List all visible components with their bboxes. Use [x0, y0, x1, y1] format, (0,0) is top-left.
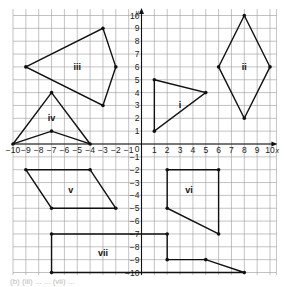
vertex-point: [114, 206, 118, 210]
vertex-point: [24, 168, 28, 172]
vertex-point: [243, 14, 247, 18]
y-tick-label: −3: [130, 178, 140, 188]
shape-label: ii: [242, 62, 247, 72]
shape-label: iv: [48, 113, 56, 123]
x-tick-label: −4: [85, 145, 95, 155]
vertex-point: [153, 129, 157, 133]
y-tick-label: 3: [135, 100, 140, 110]
x-tick-label: 9: [255, 145, 260, 155]
caption: (b) (iii) ... ... (vii) ...: [10, 277, 74, 286]
y-tick-label: 5: [135, 75, 140, 85]
y-tick-label: −8: [130, 242, 140, 252]
vertex-point: [217, 168, 221, 172]
y-tick-label: 7: [135, 49, 140, 59]
vertex-point: [101, 27, 105, 31]
y-tick-label: −4: [130, 190, 140, 200]
shape-label: iii: [73, 62, 81, 72]
y-axis-label: y: [135, 9, 140, 17]
vertex-point: [153, 78, 157, 82]
tick-labels: −10−9−8−7−6−5−4−3−2−112345678910−10−9−8−…: [6, 9, 280, 277]
shape-label: vi: [185, 185, 193, 195]
x-tick-label: 3: [178, 145, 183, 155]
shape-label: vii: [98, 248, 108, 258]
x-tick-label: −5: [72, 145, 82, 155]
y-tick-label: −9: [130, 255, 140, 265]
y-tick-label: −6: [130, 216, 140, 226]
x-tick-label: −2: [111, 145, 121, 155]
x-tick-label: 7: [229, 145, 234, 155]
y-tick-label: 9: [135, 23, 140, 33]
x-tick-label: 4: [191, 145, 196, 155]
shape-outline: [52, 234, 245, 273]
vertex-point: [204, 91, 208, 95]
vertex-point: [165, 168, 169, 172]
vertex-point: [88, 142, 92, 146]
vertex-point: [50, 271, 54, 275]
x-axis-label: x: [274, 147, 279, 154]
x-tick-label: 8: [242, 145, 247, 155]
x-tick-label: −6: [60, 145, 70, 155]
y-tick-label: 8: [135, 36, 140, 46]
x-tick-label: −7: [47, 145, 57, 155]
vertex-point: [165, 258, 169, 262]
shape-label: i: [179, 100, 182, 110]
vertex-point: [217, 65, 221, 69]
x-tick-label: 2: [165, 145, 170, 155]
vertex-point: [243, 271, 247, 275]
x-tick-label: −9: [21, 145, 31, 155]
x-tick-label: 6: [216, 145, 221, 155]
shape-label: v: [68, 185, 73, 195]
vertex-point: [204, 258, 208, 262]
vertex-point: [101, 104, 105, 108]
y-tick-label: 2: [135, 113, 140, 123]
vertex-point: [50, 232, 54, 236]
vertex-point: [50, 206, 54, 210]
vertex-point: [217, 232, 221, 236]
x-tick-label: −10: [6, 145, 21, 155]
vertex-point: [88, 168, 92, 172]
x-tick-label: 1: [152, 145, 157, 155]
shape-vii: vii: [50, 232, 246, 274]
shape-v: v: [24, 168, 118, 210]
y-tick-label: −5: [130, 203, 140, 213]
vertex-point: [24, 65, 28, 69]
vertex-point: [165, 206, 169, 210]
x-tick-label: 5: [203, 145, 208, 155]
y-tick-label: 1: [135, 126, 140, 136]
y-axis-arrow-icon: [139, 8, 144, 14]
coordinate-grid: −10−9−8−7−6−5−4−3−2−112345678910−10−9−8−…: [0, 0, 286, 287]
vertex-point: [114, 65, 118, 69]
origin-label: 0: [135, 144, 140, 154]
vertex-point: [50, 91, 54, 95]
vertex-point: [11, 142, 15, 146]
y-tick-label: −2: [130, 165, 140, 175]
y-tick-label: 4: [135, 88, 140, 98]
vertex-point: [165, 232, 169, 236]
x-tick-label: 10: [265, 145, 275, 155]
vertex-point: [268, 65, 272, 69]
vertex-point: [243, 117, 247, 121]
y-tick-label: 6: [135, 62, 140, 72]
vertex-point: [50, 129, 54, 133]
x-tick-label: −8: [34, 145, 44, 155]
x-tick-label: −3: [98, 145, 108, 155]
